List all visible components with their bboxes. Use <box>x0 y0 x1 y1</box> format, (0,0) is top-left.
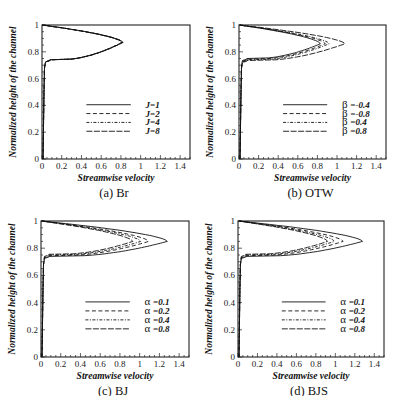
series-line-longdash <box>239 221 328 357</box>
curves <box>43 25 123 159</box>
x-tick-label: 0.4 <box>75 359 87 369</box>
x-axis-label: Streamwise velocity <box>274 173 352 183</box>
series-line-solid <box>42 221 168 357</box>
series-line-dashdot <box>239 221 335 357</box>
x-tick-label: 1.2 <box>155 161 166 171</box>
x-tick-label: 1.2 <box>349 359 360 369</box>
y-tick-label: 0 <box>231 352 236 362</box>
x-tick-label: 1.2 <box>351 161 362 171</box>
plot-svg: 00.20.40.60.811.21.400.20.40.60.81Stream… <box>0 0 200 200</box>
y-tick-label: 0.4 <box>28 100 40 110</box>
y-tick-label: 1 <box>34 216 39 226</box>
x-tick-label: 1.2 <box>154 359 165 369</box>
y-tick-label: 0 <box>35 154 40 164</box>
x-tick-label: 1.4 <box>175 161 187 171</box>
y-axis-label: Normalized height of the channel <box>204 223 214 356</box>
panel-caption: (c) BJ <box>98 384 128 396</box>
y-tick-label: 0.8 <box>27 243 39 253</box>
curves <box>239 221 363 357</box>
x-tick-label: 1.4 <box>371 161 383 171</box>
legend-label: α =0.8 <box>340 322 365 334</box>
y-tick-label: 0.8 <box>225 47 237 57</box>
x-tick-label: 0.8 <box>115 161 127 171</box>
series-line-longdash <box>43 25 122 159</box>
series-line-dashed <box>240 25 326 159</box>
y-tick-label: 0.2 <box>225 127 236 137</box>
x-tick-label: 0.8 <box>114 359 126 369</box>
x-tick-label: 0.8 <box>310 359 322 369</box>
x-tick-label: 0.6 <box>95 359 107 369</box>
y-tick-label: 0.4 <box>224 298 236 308</box>
series-line-longdash <box>42 221 133 357</box>
y-tick-label: 1 <box>231 216 236 226</box>
y-tick-label: 0 <box>232 154 237 164</box>
y-tick-label: 0.6 <box>224 270 236 280</box>
x-tick-label: 0.4 <box>76 161 88 171</box>
panel-caption: (d) BJS <box>290 384 328 396</box>
y-tick-label: 0.2 <box>224 325 235 335</box>
chart-panel-b: 00.20.40.60.811.21.400.20.40.60.81Stream… <box>197 0 397 200</box>
y-tick-label: 0.2 <box>28 127 39 137</box>
y-tick-label: 0.8 <box>28 47 40 57</box>
y-tick-label: 0.6 <box>225 74 237 84</box>
series-line-dashdot <box>240 25 330 159</box>
legend-label: J=8 <box>145 126 161 136</box>
legend-label: β =0.8 <box>342 124 367 136</box>
y-tick-label: 0 <box>34 352 39 362</box>
y-axis-label: Normalized height of the channel <box>8 26 18 159</box>
series-line-solid <box>239 221 363 357</box>
curves <box>42 221 168 357</box>
y-tick-label: 0.6 <box>28 74 40 84</box>
x-tick-label: 0.2 <box>252 359 263 369</box>
legend: α =0.1α =0.2α =0.4α =0.8 <box>85 295 170 334</box>
x-tick-label: 1 <box>137 359 142 369</box>
x-tick-label: 0.2 <box>55 359 66 369</box>
x-tick-label: 0.6 <box>292 161 304 171</box>
legend: α =0.1α =0.2α =0.4α =0.8 <box>282 295 366 334</box>
x-tick-label: 0 <box>40 161 45 171</box>
x-tick-label: 0.8 <box>312 161 324 171</box>
series-line-longdash <box>240 25 345 159</box>
axes-frame <box>239 25 386 159</box>
y-axis-label: Normalized height of the channel <box>7 223 17 356</box>
chart-panel-d: 00.20.40.60.811.21.400.20.40.60.81Stream… <box>196 196 396 396</box>
plot-svg: 00.20.40.60.811.21.400.20.40.60.81Stream… <box>196 196 396 396</box>
x-tick-label: 0 <box>39 359 44 369</box>
x-tick-label: 0 <box>236 359 241 369</box>
y-tick-label: 0.2 <box>27 325 38 335</box>
x-tick-label: 1 <box>333 359 338 369</box>
x-tick-label: 0.4 <box>273 161 285 171</box>
x-axis-label: Streamwise velocity <box>78 173 156 183</box>
x-axis-label: Streamwise velocity <box>77 371 155 381</box>
chart-panel-a: 00.20.40.60.811.21.400.20.40.60.81Stream… <box>0 0 200 200</box>
x-tick-label: 0 <box>237 161 242 171</box>
legend: β =-0.4β =-0.8β =0.4β =0.8 <box>283 98 370 137</box>
series-line-dashed <box>43 25 123 159</box>
x-tick-label: 0.4 <box>271 359 283 369</box>
plot-svg: 00.20.40.60.811.21.400.20.40.60.81Stream… <box>0 196 199 396</box>
x-axis-label: Streamwise velocity <box>273 371 351 381</box>
series-line-dashdot <box>42 221 141 357</box>
legend-label: α =0.8 <box>145 322 170 334</box>
x-tick-label: 0.6 <box>291 359 303 369</box>
x-tick-label: 0.2 <box>253 161 264 171</box>
y-tick-label: 1 <box>232 20 237 30</box>
y-tick-label: 0.8 <box>224 243 236 253</box>
x-tick-label: 1 <box>138 161 143 171</box>
y-axis-label: Normalized height of the channel <box>205 26 215 159</box>
series-line-solid <box>43 25 123 159</box>
x-tick-label: 1.4 <box>174 359 186 369</box>
y-tick-label: 0.4 <box>225 100 237 110</box>
chart-panel-c: 00.20.40.60.811.21.400.20.40.60.81Stream… <box>0 196 199 396</box>
x-tick-label: 0.2 <box>56 161 67 171</box>
series-line-solid <box>240 25 321 159</box>
x-tick-label: 1 <box>335 161 340 171</box>
curves <box>240 25 345 159</box>
axes-frame <box>42 25 190 159</box>
x-tick-label: 0.6 <box>96 161 108 171</box>
plot-svg: 00.20.40.60.811.21.400.20.40.60.81Stream… <box>197 0 397 200</box>
legend: J=1J=2J=4J=8 <box>86 100 160 137</box>
series-line-dashdot <box>43 25 122 159</box>
y-tick-label: 0.4 <box>27 298 39 308</box>
y-tick-label: 1 <box>35 20 40 30</box>
